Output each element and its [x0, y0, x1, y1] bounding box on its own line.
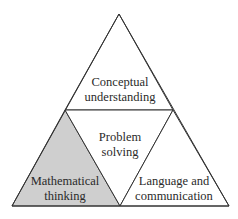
label-language-and: Language and	[139, 174, 210, 188]
label-understanding: understanding	[85, 90, 157, 104]
label-conceptual: Conceptual	[92, 75, 149, 89]
triangle-diagram: Conceptual understanding Problem solving…	[0, 0, 238, 219]
label-communication: communication	[135, 189, 214, 203]
label-mathematical: Mathematical	[31, 174, 100, 188]
label-solving: solving	[102, 145, 140, 159]
label-problem: Problem	[99, 130, 142, 144]
label-thinking: thinking	[44, 189, 86, 203]
diagram-canvas: Conceptual understanding Problem solving…	[0, 0, 238, 219]
